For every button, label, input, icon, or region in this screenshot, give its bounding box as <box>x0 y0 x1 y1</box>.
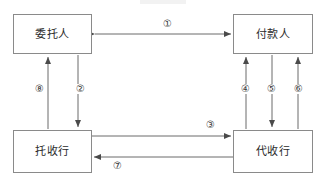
node-payer[interactable]: 付款人 <box>233 14 313 54</box>
edge-label-5: ⑤ <box>266 84 277 94</box>
node-principal[interactable]: 委托人 <box>13 14 92 54</box>
edge-label-4: ④ <box>240 84 251 94</box>
edge-label-1: ① <box>162 19 173 29</box>
edge-label-8: ⑧ <box>34 84 45 94</box>
node-payer-label: 付款人 <box>256 29 291 40</box>
edge-label-6: ⑥ <box>293 84 304 94</box>
node-remitting-bank[interactable]: 托收行 <box>13 130 92 173</box>
edge-label-2: ② <box>75 84 86 94</box>
edge-label-7: ⑦ <box>112 161 123 171</box>
scan-artifact <box>140 0 186 4</box>
node-principal-label: 委托人 <box>35 29 70 40</box>
node-collecting-bank[interactable]: 代收行 <box>233 130 313 173</box>
edge-label-3: ③ <box>205 120 216 130</box>
node-remitting-bank-label: 托收行 <box>35 146 70 157</box>
node-collecting-bank-label: 代收行 <box>256 146 291 157</box>
diagram-canvas: 委托人 付款人 托收行 代收行 ① ② ③ ④ ⑤ ⑥ ⑦ ⑧ <box>0 0 325 181</box>
